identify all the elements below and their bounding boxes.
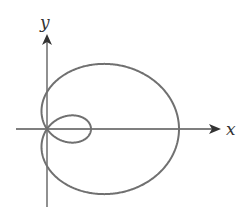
y-axis-label: y — [39, 12, 50, 32]
polar-diagram: x y — [0, 0, 250, 215]
x-axis-label: x — [226, 119, 236, 139]
